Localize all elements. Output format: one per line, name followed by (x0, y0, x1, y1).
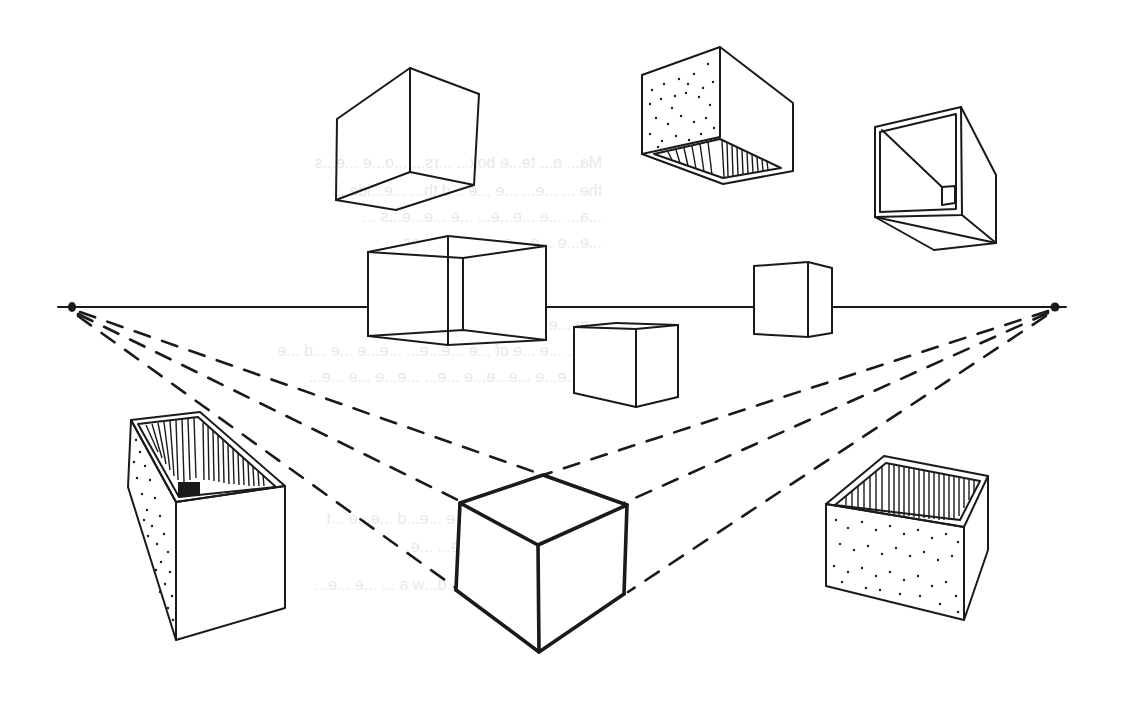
floating-open-box-top-right (875, 107, 996, 250)
open-box-bottom-right (826, 456, 988, 620)
ghost-line-7: ...e...e...e ...e...e...e ...e... ...e..… (309, 368, 602, 385)
ghost-line-3: ...a... ...e ...e...e... ...e ...e...e..… (363, 208, 602, 225)
floating-box-top-middle (642, 47, 793, 184)
left-vanishing-point-marker (68, 302, 76, 312)
small-cube-center (574, 323, 678, 407)
perspective-drawing: Ma... a... te...e box... ...rs... ...o..… (0, 0, 1122, 704)
open-box-bottom-left (128, 412, 285, 640)
stipple-texture (649, 63, 715, 148)
small-cube-right (754, 262, 832, 337)
transparent-cube (368, 236, 546, 345)
right-vanishing-point-marker (1051, 303, 1060, 312)
main-cube (456, 475, 627, 652)
ghost-line-1: Ma... a... te...e box... ...rs... ...o..… (315, 154, 602, 171)
